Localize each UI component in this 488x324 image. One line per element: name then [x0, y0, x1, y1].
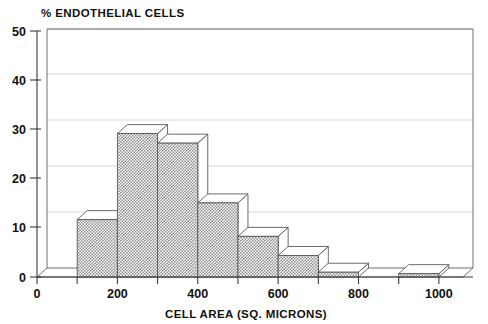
bar-front-face	[158, 143, 198, 277]
bar-front-face	[278, 255, 318, 277]
y-tick-label-40: 40	[12, 74, 26, 88]
y-tick-label-30: 30	[12, 123, 26, 137]
y-tick-label-10: 10	[12, 221, 26, 235]
bar-700-800	[318, 263, 368, 277]
x-tick-label-200: 200	[107, 287, 128, 301]
chart-figure: % ENDOTHELIAL CELLS 50 40	[0, 0, 488, 324]
histogram-chart: % ENDOTHELIAL CELLS 50 40	[0, 0, 488, 324]
bar-front-face	[238, 236, 278, 277]
bar-front-face	[77, 220, 117, 277]
bar-900-1000	[399, 265, 449, 277]
chart-title: % ENDOTHELIAL CELLS	[41, 7, 184, 19]
bar-front-face	[318, 272, 358, 277]
y-tick-label-0: 0	[19, 271, 26, 285]
x-tick-label-0: 0	[34, 287, 41, 301]
y-tick-label-20: 20	[12, 172, 26, 186]
x-tick-label-1000: 1000	[425, 287, 453, 301]
x-tick-label-400: 400	[187, 287, 208, 301]
x-tick-label-800: 800	[348, 287, 369, 301]
bar-front-face	[117, 134, 157, 277]
x-axis-title: CELL AREA (SQ. MICRONS)	[165, 308, 327, 320]
bar-front-face	[198, 203, 238, 277]
x-tick-label-600: 600	[268, 287, 289, 301]
y-tick-label-50: 50	[12, 25, 26, 39]
